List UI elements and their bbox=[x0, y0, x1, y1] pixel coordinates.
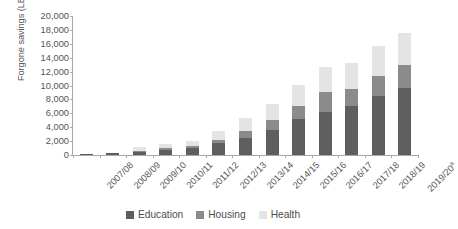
y-axis-tick-label: 16,000 bbox=[25, 39, 69, 49]
x-axis-tick-mark bbox=[418, 155, 419, 158]
bar-stack bbox=[292, 85, 305, 155]
legend-item-label: Housing bbox=[208, 209, 245, 220]
bar-stack bbox=[80, 154, 93, 155]
y-axis-tick-mark bbox=[70, 127, 73, 128]
y-axis-tick-label: 10,000 bbox=[25, 81, 69, 91]
bar-segment-housing bbox=[239, 131, 252, 138]
y-axis-tick-label: 12,000 bbox=[25, 67, 69, 77]
y-axis-tick-label: 14,000 bbox=[25, 53, 69, 63]
bar-stack bbox=[133, 147, 146, 155]
legend-item-label: Education bbox=[138, 209, 183, 220]
y-axis-tick-label: 6,000 bbox=[25, 108, 69, 118]
bar-segment-education bbox=[212, 143, 225, 155]
bar-stack bbox=[398, 33, 411, 155]
bar-segment-health bbox=[292, 85, 305, 107]
x-axis-category-label: 2008/09 bbox=[132, 160, 163, 191]
y-axis-tick-label: 2,000 bbox=[25, 136, 69, 146]
bar-segment-housing bbox=[319, 92, 332, 111]
bar-segment-housing bbox=[345, 89, 358, 106]
x-axis-category-label: 2012/13 bbox=[238, 160, 269, 191]
y-axis-tick-label: 20,000 bbox=[25, 11, 69, 21]
bar-segment-education bbox=[80, 154, 93, 155]
bar-segment-health bbox=[239, 118, 252, 131]
legend-item-housing[interactable]: Housing bbox=[196, 209, 245, 220]
bar-segment-health bbox=[345, 63, 358, 89]
bar-stack bbox=[186, 141, 199, 155]
bar-segment-education bbox=[106, 153, 119, 155]
y-axis-tick-mark bbox=[70, 44, 73, 45]
y-axis-tick-mark bbox=[70, 86, 73, 87]
x-axis-category-label: 2018/19 bbox=[397, 160, 428, 191]
bar-stack bbox=[239, 118, 252, 155]
y-axis-tick-label: 0 bbox=[25, 150, 69, 160]
x-axis-tick-mark bbox=[312, 155, 313, 158]
bar-segment-housing bbox=[398, 65, 411, 89]
x-axis-tick-mark bbox=[391, 155, 392, 158]
plot-area: 02,0004,0006,0008,00010,00012,00014,0001… bbox=[73, 16, 418, 155]
x-axis-category-label: 2019/20a bbox=[424, 160, 458, 194]
y-axis-tick-label: 4,000 bbox=[25, 122, 69, 132]
cropped-chart-title bbox=[62, 0, 222, 1]
bar-segment-health bbox=[398, 33, 411, 64]
y-axis-tick-mark bbox=[70, 113, 73, 114]
y-axis-tick-label: 18,000 bbox=[25, 25, 69, 35]
x-axis-category-label: 2017/18 bbox=[370, 160, 401, 191]
legend-swatch-housing bbox=[196, 211, 204, 219]
bar-segment-education bbox=[292, 119, 305, 155]
x-axis-tick-mark bbox=[232, 155, 233, 158]
bar-segment-education bbox=[345, 106, 358, 155]
x-axis-category-label: 2007/08 bbox=[105, 160, 136, 191]
x-axis-tick-mark bbox=[100, 155, 101, 158]
bar-stack bbox=[266, 104, 279, 155]
x-axis-tick-mark bbox=[153, 155, 154, 158]
x-axis-category-label: 2010/11 bbox=[184, 160, 214, 190]
x-axis-tick-mark bbox=[179, 155, 180, 158]
legend-swatch-education bbox=[126, 211, 134, 219]
bar-segment-education bbox=[398, 88, 411, 155]
x-axis-tick-mark bbox=[126, 155, 127, 158]
bar-segment-health bbox=[212, 131, 225, 140]
x-axis-category-label: 2016/17 bbox=[344, 160, 375, 191]
bar-segment-health bbox=[372, 46, 385, 76]
legend-item-education[interactable]: Education bbox=[126, 209, 183, 220]
x-axis-tick-mark bbox=[285, 155, 286, 158]
bar-segment-education bbox=[186, 148, 199, 155]
bar-stack bbox=[372, 46, 385, 155]
bar-segment-education bbox=[372, 96, 385, 155]
x-axis-tick-mark bbox=[73, 155, 74, 158]
y-axis-tick-label: 8,000 bbox=[25, 94, 69, 104]
x-axis-tick-mark bbox=[338, 155, 339, 158]
x-axis-category-label: 2011/12 bbox=[211, 160, 241, 190]
y-axis-tick-mark bbox=[70, 141, 73, 142]
bar-segment-housing bbox=[372, 76, 385, 96]
x-axis-tick-mark bbox=[206, 155, 207, 158]
x-axis-category-label: 2015/16 bbox=[317, 160, 348, 191]
bar-segment-education bbox=[133, 152, 146, 155]
x-axis-tick-mark bbox=[259, 155, 260, 158]
x-axis-tick-mark bbox=[365, 155, 366, 158]
y-axis-tick-mark bbox=[70, 16, 73, 17]
bar-stack bbox=[159, 144, 172, 155]
chart-legend: EducationHousingHealth bbox=[0, 209, 426, 220]
bar-segment-health bbox=[319, 67, 332, 92]
bar-segment-education bbox=[239, 138, 252, 155]
bar-segment-education bbox=[319, 112, 332, 155]
x-axis-category-label: 2009/10 bbox=[158, 160, 189, 191]
legend-swatch-health bbox=[259, 211, 267, 219]
bar-stack bbox=[212, 131, 225, 155]
bar-segment-education bbox=[159, 150, 172, 155]
legend-item-health[interactable]: Health bbox=[259, 209, 300, 220]
y-axis-tick-mark bbox=[70, 72, 73, 73]
y-axis-tick-mark bbox=[70, 30, 73, 31]
y-axis-tick-mark bbox=[70, 58, 73, 59]
x-axis-label-footnote-marker: a bbox=[448, 160, 455, 167]
bar-segment-health bbox=[266, 104, 279, 121]
bar-stack bbox=[319, 67, 332, 155]
bar-segment-education bbox=[266, 130, 279, 155]
x-axis-line bbox=[72, 155, 418, 156]
bar-segment-housing bbox=[292, 106, 305, 119]
bar-stack bbox=[106, 153, 119, 155]
y-axis-tick-mark bbox=[70, 99, 73, 100]
x-axis-category-label: 2013/14 bbox=[264, 160, 295, 191]
